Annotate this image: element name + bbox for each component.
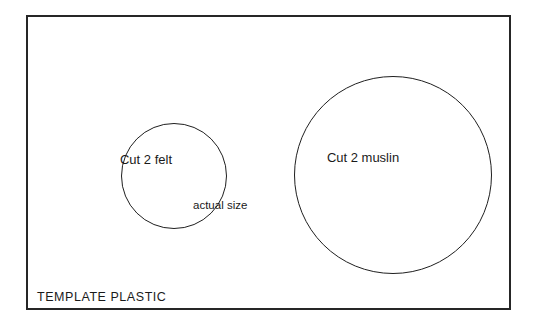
pattern-template-sheet: Cut 2 felt Cut 2 muslin actual size TEMP… (0, 0, 536, 326)
template-plastic-label: TEMPLATE PLASTIC (37, 291, 166, 304)
pattern-piece-large-circle (294, 76, 492, 274)
template-plastic-outline (26, 15, 511, 310)
scale-annotation: actual size (193, 200, 247, 212)
pattern-piece-label-muslin: Cut 2 muslin (327, 151, 399, 164)
pattern-piece-label-felt: Cut 2 felt (120, 153, 172, 166)
pattern-piece-small-circle (121, 123, 227, 229)
